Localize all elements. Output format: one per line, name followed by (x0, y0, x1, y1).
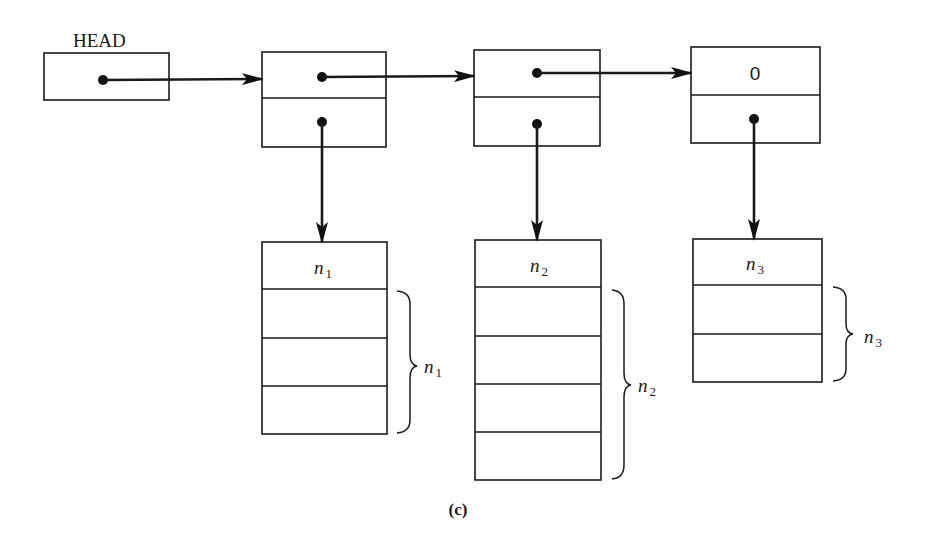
figure-caption: (c) (449, 500, 468, 519)
list-node-3: 0 (691, 47, 820, 239)
brace-label: n3 (864, 326, 882, 350)
brace-label: n1 (424, 356, 442, 380)
brace (397, 291, 417, 433)
linked-list-diagram: HEAD 0 n1 n1 (0, 0, 926, 546)
head-arrow (103, 79, 262, 80)
list-node-1 (262, 52, 474, 242)
data-block-1: n1 n1 (262, 242, 442, 434)
next-arrow (322, 76, 474, 77)
brace (612, 290, 631, 479)
list-node-2 (474, 50, 691, 240)
brace-label: n2 (638, 375, 656, 399)
data-block-2: n2 n2 (475, 240, 656, 480)
block-header-label: n2 (530, 255, 548, 279)
null-pointer-value: 0 (750, 63, 761, 84)
block-header-label: n3 (746, 253, 764, 277)
data-block-3: n3 n3 (693, 239, 882, 382)
head-label: HEAD (73, 30, 126, 51)
block-header-label: n1 (314, 257, 332, 281)
brace (833, 287, 853, 381)
